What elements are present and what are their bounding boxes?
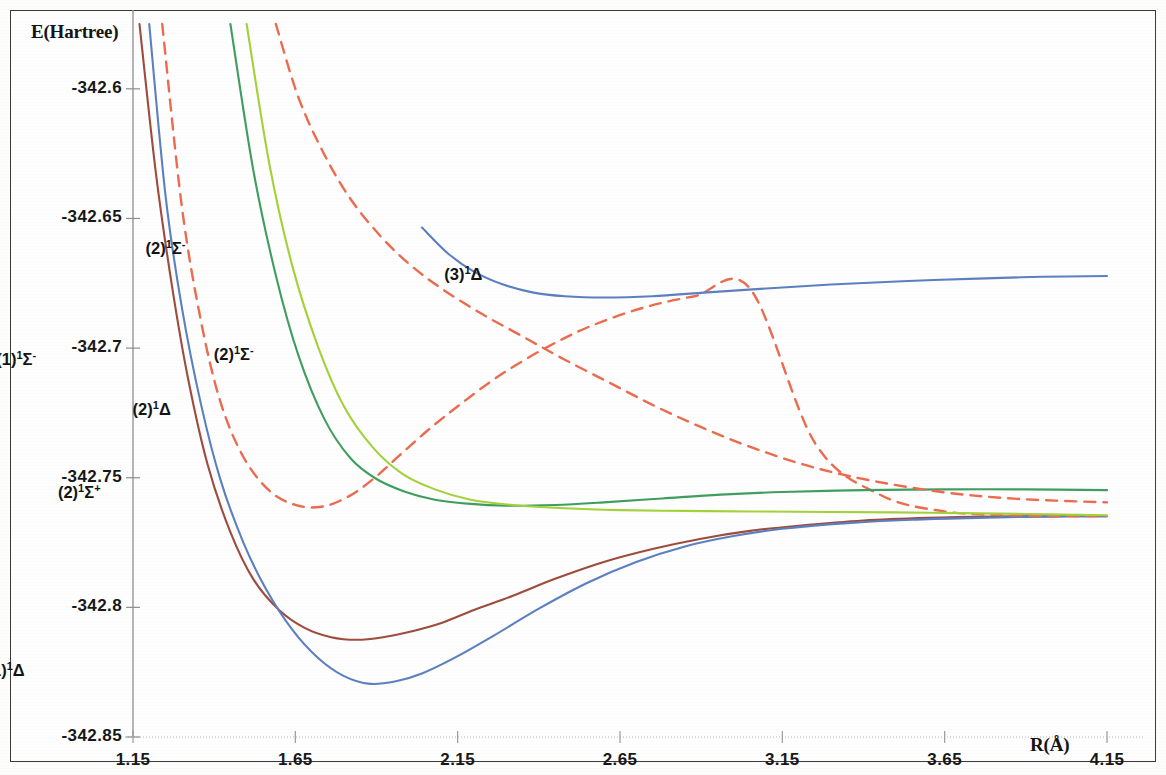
x-tick-label-3: 2.65: [575, 750, 665, 770]
figure-root: E(Hartree)R(Å)-342.6-342.65-342.7-342.75…: [0, 0, 1166, 775]
curve-label-2: (2)1Σ+: [58, 483, 101, 502]
x-tick-label-5: 3.65: [900, 750, 990, 770]
curve-6: [422, 228, 1107, 298]
curve-label-5: (2)1Σ-: [146, 239, 186, 258]
curve-5: [276, 24, 1107, 502]
x-tick-label-4: 3.15: [737, 750, 827, 770]
curve-label-4: (2)1Δ: [133, 400, 171, 419]
curve-label-6: (3)1Δ: [444, 265, 482, 284]
y-tick-label-0: -342.6: [18, 78, 122, 98]
y-tick-label-1: -342.65: [18, 207, 122, 227]
x-tick-label-1: 1.65: [250, 750, 340, 770]
curve-group: [139, 24, 1107, 684]
curve-2: [162, 24, 1107, 516]
y-tick-label-5: -342.85: [18, 726, 122, 746]
curve-0: [139, 24, 1107, 640]
curve-label-1: (1)1Δ: [0, 661, 25, 680]
curve-label-5-alt: (2)1Σ-: [214, 345, 254, 364]
x-tick-label-6: 4.15: [1062, 750, 1152, 770]
potential-energy-curves-plot: [0, 0, 1166, 775]
axis-lines: [125, 10, 1145, 737]
x-tick-label-0: 1.15: [88, 750, 178, 770]
curve-1: [149, 24, 1107, 684]
y-tick-label-4: -342.8: [18, 596, 122, 616]
x-tick-label-2: 2.15: [413, 750, 503, 770]
curve-label-3: (1)1Σ-: [0, 350, 36, 369]
curve-4: [247, 24, 1107, 515]
y-axis-title: E(Hartree): [31, 21, 118, 43]
